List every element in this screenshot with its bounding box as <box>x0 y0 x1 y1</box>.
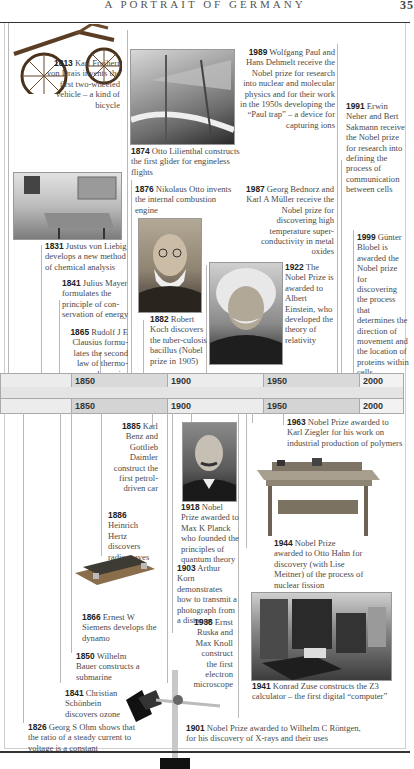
timeline-band-bottom: 1850 1900 1950 2000 <box>0 398 404 414</box>
leader-line <box>172 413 173 633</box>
leader-line <box>127 30 128 376</box>
leader-line <box>353 230 354 376</box>
leader-line <box>71 413 72 653</box>
event-1874-caption: 1874 Otto Lilienthal constructs the firs… <box>131 146 241 177</box>
timeline-label-2000-bottom: 2000 <box>359 399 403 413</box>
event-1987-caption: 1987 Georg Bednorz and Karl A Müller rec… <box>242 184 334 257</box>
siemens-dynamo-image <box>73 551 158 591</box>
leader-line <box>101 413 102 556</box>
leader-line <box>143 320 144 376</box>
event-1999-caption: 1999 Günter Blobel is awarded the Nobel … <box>357 232 409 378</box>
page-number: 35 <box>400 0 414 13</box>
einstein-portrait-image <box>209 262 283 365</box>
liebig-laboratory-image <box>13 172 122 240</box>
event-1876-caption: 1876 Nikolaus Otto invents the internal … <box>135 184 235 215</box>
event-1901-caption: 1901 Nobel Prize awarded to Wilhelm C Rö… <box>186 723 366 744</box>
event-1841-mayer-caption: 1841 Julius Mayer formulates the princip… <box>62 278 134 320</box>
bottom-rule <box>0 751 410 753</box>
running-head-title: A PORTRAIT OF GERMANY <box>0 0 410 10</box>
event-1831-caption: 1831 Justus von Liebig develops a new me… <box>45 241 127 272</box>
event-1944-caption: 1944 Nobel Prize awarded to Otto Hahn fo… <box>274 538 364 590</box>
timeline-label-1850-top: 1850 <box>71 374 167 388</box>
leader-line <box>337 44 338 376</box>
timeline-label-1950-top: 1950 <box>263 374 359 388</box>
event-1885-caption: 1885 Karl Benz and Gottlieb Daimler cons… <box>104 421 158 494</box>
leader-line <box>60 413 61 683</box>
running-head: A PORTRAIT OF GERMANY 35 <box>0 0 410 14</box>
event-1991-caption: 1991 Erwin Neher and Bert Sakmann receiv… <box>346 101 406 195</box>
timeline-label-2000-top: 2000 <box>359 374 403 388</box>
robert-koch-portrait-image <box>138 218 202 313</box>
event-1922-caption: 1922 The Nobel Prize is awarded to Alber… <box>285 262 335 345</box>
timeline-label-1950-bottom: 1950 <box>263 399 359 413</box>
leader-line <box>167 413 168 683</box>
event-1989-caption: 1989 Wolfgang Paul and Hans Dehmelt rece… <box>240 47 335 130</box>
event-1963-caption: 1963 Nobel Prize awarded to Karl Ziegler… <box>287 417 405 448</box>
lilienthal-glider-image <box>130 49 235 145</box>
zuse-z3-computer-image <box>251 592 392 681</box>
timeline-label-1850-bottom: 1850 <box>71 399 167 413</box>
event-1813-caption: 1813 Karl Freiherr von Drais invents the… <box>40 58 120 110</box>
event-1866-caption: 1866 Ernest W Siemens develops the dynam… <box>82 612 164 643</box>
timeline-label-1900-bottom: 1900 <box>167 399 263 413</box>
electron-microscope-image <box>120 670 230 769</box>
event-1882-caption: 1882 Robert Koch discovers the tuber-cul… <box>150 314 210 366</box>
event-1841-schonbein-caption: 1841 Christian Schönbein discovers ozone <box>65 688 127 719</box>
leader-line <box>252 413 253 423</box>
hahn-fission-table-image <box>252 458 382 536</box>
timeline-label-1900-top: 1900 <box>167 374 263 388</box>
event-1941-caption: 1941 Konrad Zuse constructs the Z3 calcu… <box>252 681 397 702</box>
leader-line <box>41 245 42 376</box>
leader-line <box>341 160 342 376</box>
leader-line <box>23 413 24 723</box>
max-planck-portrait-image <box>182 422 237 502</box>
event-1918-caption: 1918 Nobel Prize awarded to Max K Planck… <box>181 502 239 564</box>
event-1865-caption: 1865 Rudolf J E Clausius formu-lates the… <box>62 327 128 379</box>
leader-line <box>283 413 284 425</box>
leader-line <box>246 413 247 548</box>
event-1826-caption: 1826 Georg S Ohm shows that the ratio of… <box>28 722 140 753</box>
leader-line <box>59 300 60 376</box>
